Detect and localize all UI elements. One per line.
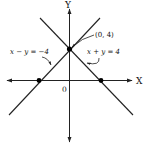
origin-label: 0 — [62, 85, 67, 94]
coordinate-graph: Y X 0 (0, 4) x + y = 4 x − y = −4 — [0, 0, 147, 146]
pointer-arrow-x-plus-y — [87, 58, 99, 64]
point-0-4 — [67, 46, 72, 51]
point-neg4-0 — [37, 78, 42, 83]
point-label-0-4: (0, 4) — [95, 31, 114, 39]
point-4-0 — [99, 78, 104, 83]
equation-label-x-minus-y: x − y = −4 — [10, 48, 49, 56]
y-axis-label: Y — [64, 0, 72, 10]
pointer-arrow-x-minus-y — [42, 57, 51, 65]
x-axis-label: X — [136, 76, 143, 86]
equation-label-x-plus-y: x + y = 4 — [87, 48, 120, 56]
